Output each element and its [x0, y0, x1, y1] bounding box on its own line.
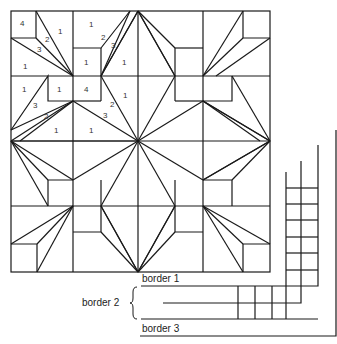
patch-number-label: 1 — [23, 63, 27, 71]
patch-number-label: 1 — [122, 59, 126, 67]
patch-number-label: 1 — [57, 86, 61, 94]
border-2-brace — [130, 287, 137, 319]
border-2-checkerboard — [238, 188, 318, 319]
patch-number-label: 3 — [103, 112, 107, 120]
patch-number-label: 1 — [84, 59, 88, 67]
quilt-diagram — [0, 0, 337, 344]
patch-number-label: 1 — [54, 127, 58, 135]
patch-number-label: 3 — [111, 42, 115, 50]
patch-number-label: 1 — [22, 86, 26, 94]
patch-number-label: 2 — [45, 36, 49, 44]
patch-number-label: 1 — [58, 28, 62, 36]
patch-number-label: 4 — [84, 86, 88, 94]
patch-number-label: 2 — [101, 34, 105, 42]
patch-number-label: 4 — [20, 20, 24, 28]
border-1-label: border 1 — [142, 274, 179, 284]
patch-number-label: 3 — [37, 46, 41, 54]
patch-number-label: 2 — [110, 101, 114, 109]
border-3-label: border 3 — [142, 324, 179, 334]
border-2-label: border 2 — [82, 298, 119, 308]
patch-number-label: 1 — [123, 92, 127, 100]
patch-number-label: 2 — [44, 113, 48, 121]
patch-number-label: 1 — [89, 21, 93, 29]
patch-number-label: 1 — [89, 127, 93, 135]
patch-number-label: 3 — [33, 102, 37, 110]
